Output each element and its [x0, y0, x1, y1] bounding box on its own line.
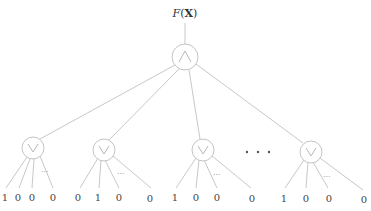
or-group-1: ··· 1 0 0 0	[2, 137, 56, 203]
leaf-value: 0	[214, 192, 220, 203]
leaf-value: 0	[249, 193, 255, 204]
leaf-value: 0	[193, 192, 199, 203]
leaf-value: 0	[326, 193, 332, 204]
ellipsis: ···	[41, 167, 49, 176]
edge-root-or2	[109, 69, 179, 140]
or-node	[22, 137, 44, 159]
more-groups-ellipsis	[246, 151, 270, 153]
leaf-value: 0	[303, 193, 309, 204]
leaf-value: 1	[2, 192, 8, 203]
edge-root-or3	[189, 70, 200, 139]
leaf-value: 1	[95, 192, 101, 203]
leaf-value: 0	[75, 192, 81, 203]
leaf-value: 0	[147, 193, 153, 204]
or-node	[93, 139, 115, 161]
or-group-3: ··· 1 0 0 0	[172, 139, 255, 204]
leaf-value: 1	[172, 192, 178, 203]
or-group-4: ··· 1 0 0 0	[281, 141, 367, 205]
ellipsis: ···	[323, 172, 331, 181]
or-group-2: ··· 0 1 0 0	[75, 139, 153, 204]
leaf-value: 0	[50, 192, 56, 203]
output-label: F(X)	[172, 7, 198, 20]
or-node	[192, 139, 214, 161]
leaf-value: 0	[15, 192, 21, 203]
and-node	[172, 44, 198, 70]
leaf-value: 0	[116, 192, 122, 203]
leaf-value: 0	[29, 192, 35, 203]
leaf-value: 1	[281, 193, 287, 204]
edge-root-or4	[196, 64, 303, 143]
boolean-formula-tree: F(X) ··· 1 0 0 0 ··· 0 1 0 0	[0, 0, 371, 211]
ellipsis: ···	[117, 169, 125, 178]
edge-root-or1	[40, 65, 175, 139]
or-node	[300, 141, 322, 163]
ellipsis: ···	[213, 170, 221, 179]
leaf-value: 0	[361, 194, 367, 205]
